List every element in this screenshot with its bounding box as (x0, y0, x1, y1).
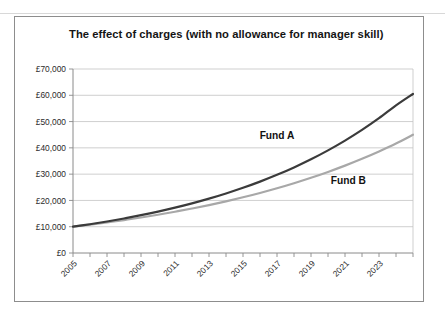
x-tick-label: 2009 (127, 258, 147, 278)
y-tick-label: £10,000 (36, 222, 67, 232)
y-tick-label: £70,000 (36, 64, 67, 74)
annotation-fund-b: Fund B (331, 175, 366, 186)
chart-frame: The effect of charges (with no allowance… (14, 16, 424, 302)
x-tick-label: 2017 (263, 258, 283, 278)
gridlines (73, 69, 413, 253)
y-tick-label: £50,000 (36, 117, 67, 127)
x-tick-label: 2019 (297, 258, 317, 278)
y-tick-label: £40,000 (36, 143, 67, 153)
x-tick-label: 2011 (161, 258, 181, 278)
x-tick-label: 2005 (59, 258, 79, 278)
x-tick-label: 2015 (229, 258, 249, 278)
annotation-fund-a: Fund A (260, 130, 295, 141)
scan-artifact-line (0, 13, 445, 14)
x-tick-label: 2013 (195, 258, 215, 278)
axes (73, 69, 413, 253)
tick-marks (69, 69, 413, 257)
x-tick-label: 2021 (331, 258, 351, 278)
y-tick-label: £0 (57, 248, 67, 258)
x-tick-label: 2007 (93, 258, 113, 278)
data-series (73, 94, 413, 227)
y-tick-label: £30,000 (36, 169, 67, 179)
x-axis-tick-labels: 2005200720092011201320152017201920212023 (59, 258, 385, 278)
series-line-fund-a (73, 94, 413, 227)
line-chart-plot: £0£10,000£20,000£30,000£40,000£50,000£60… (15, 17, 425, 303)
y-axis-tick-labels: £0£10,000£20,000£30,000£40,000£50,000£60… (36, 64, 67, 258)
y-tick-label: £20,000 (36, 196, 67, 206)
y-tick-label: £60,000 (36, 90, 67, 100)
x-tick-label: 2023 (365, 258, 385, 278)
